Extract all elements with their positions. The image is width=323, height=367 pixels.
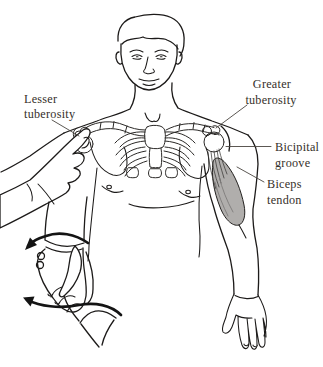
patient-left-arm	[204, 126, 266, 349]
clavicle-right	[166, 123, 220, 137]
label-greater-tuberosity-line2: tuberosity	[245, 93, 297, 107]
leader-lesser-tuberosity	[52, 120, 79, 136]
patient-figure	[1, 14, 248, 261]
examiner-palpating-hand	[0, 129, 90, 228]
label-bicipital-groove-line2: groove	[275, 156, 310, 170]
patient-torso	[88, 113, 209, 261]
examiner-palpating-hand-silhouette	[0, 129, 90, 228]
label-biceps-tendon-line2: tendon	[267, 193, 302, 207]
label-lesser-tuberosity-line1: Lesser	[24, 92, 57, 106]
patient-facial-features	[130, 50, 168, 85]
patient-left-hand	[222, 294, 266, 349]
humeral-head-right	[203, 127, 225, 153]
medical-illustration: Lesser tuberosity Greater tuberosity Bic…	[0, 0, 323, 367]
biceps-distal-tendon	[239, 225, 246, 238]
ribs-left	[115, 132, 147, 176]
leader-greater-tuberosity	[216, 105, 247, 128]
examiner-forearm	[80, 311, 116, 347]
label-biceps-tendon-line1: Biceps	[267, 177, 302, 191]
examiner-thumb	[59, 246, 81, 297]
illustration-canvas: Lesser tuberosity Greater tuberosity Bic…	[0, 0, 323, 367]
label-bicipital-groove-line1: Bicipital	[275, 140, 320, 154]
sternum	[145, 125, 166, 167]
patient-hair	[118, 14, 184, 56]
rib-stubs	[127, 168, 178, 178]
leader-biceps-tendon	[237, 167, 264, 182]
biceps-muscle-group	[208, 149, 246, 238]
label-greater-tuberosity-line1: Greater	[253, 77, 291, 91]
patient-neck-shoulders	[64, 83, 248, 135]
label-lesser-tuberosity-line2: tuberosity	[24, 107, 76, 121]
patient-right-forearm	[45, 197, 87, 252]
